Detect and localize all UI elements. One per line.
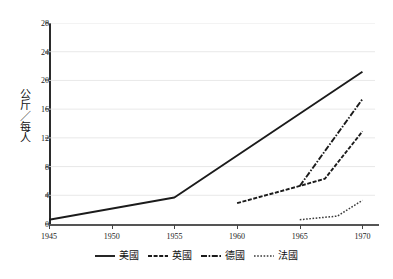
- legend-label: 美國: [119, 251, 139, 261]
- x-tick-label: 1960: [229, 232, 245, 241]
- x-tick-label: 1970: [354, 232, 370, 241]
- line-solid-icon: [95, 251, 115, 261]
- line-dashed-icon: [148, 251, 168, 261]
- x-tick-mark: [237, 225, 238, 229]
- series-lines: [49, 23, 375, 224]
- line-dashdot-icon: [201, 251, 221, 261]
- legend-label: 法國: [278, 251, 298, 261]
- series-line-美國: [49, 72, 362, 220]
- legend-label: 德國: [225, 251, 245, 261]
- x-axis-ticks: 194519501955196019651970: [49, 225, 379, 245]
- legend-item-美國[interactable]: 美國: [95, 251, 139, 261]
- line-chart: 公斤／每人 0481216202428 19451950195519601965…: [0, 0, 393, 279]
- x-tick-label: 1965: [292, 232, 308, 241]
- x-tick-mark: [112, 225, 113, 229]
- x-tick-mark: [174, 225, 175, 229]
- x-tick-label: 1950: [104, 232, 120, 241]
- legend-item-英國[interactable]: 英國: [148, 251, 192, 261]
- y-axis-ticks: 0481216202428: [26, 23, 49, 224]
- line-dotted-icon: [254, 251, 274, 261]
- series-line-法國: [300, 200, 363, 219]
- x-tick-mark: [362, 225, 363, 229]
- legend-label: 英國: [172, 251, 192, 261]
- x-tick-label: 1955: [166, 232, 182, 241]
- x-tick-label: 1945: [41, 232, 57, 241]
- chart-legend: 美國英國德國法國: [0, 251, 393, 261]
- x-tick-mark: [49, 225, 50, 229]
- plot-area: [49, 23, 375, 224]
- x-tick-mark: [300, 225, 301, 229]
- legend-item-德國[interactable]: 德國: [201, 251, 245, 261]
- legend-item-法國[interactable]: 法國: [254, 251, 298, 261]
